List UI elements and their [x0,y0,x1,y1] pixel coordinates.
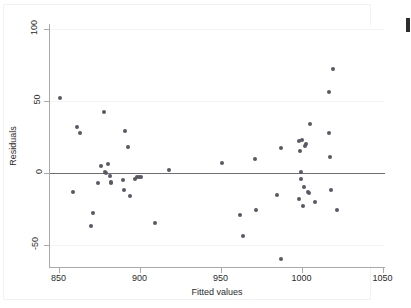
zero-reference-line [50,173,385,174]
gridline-y [50,245,385,246]
scatter-point [99,164,103,168]
y-axis-title: Residuals [9,126,18,166]
scatter-point [238,213,242,217]
scatter-point [313,200,317,204]
scatter-point [71,190,75,194]
y-tick-label: 50 [0,95,42,104]
gridline-y [50,29,385,30]
scatter-point [297,197,301,201]
scatter-point [308,122,312,126]
x-axis-title: Fitted values [49,288,385,297]
edge-artifact-mark [406,18,410,32]
scatter-point [304,142,308,146]
y-tick-label-text: 50 [32,94,41,104]
scatter-point [96,181,100,185]
scatter-point [108,174,112,178]
scatter-point [121,178,125,182]
y-tick-mark [44,245,49,246]
y-tick-label-text: 100 [30,19,39,34]
x-tick-label: 1050 [363,274,403,283]
scatter-point [299,170,303,174]
scatter-point [301,204,305,208]
scatter-plot-figure: 100500-50 85090095010001050 Residuals Fi… [0,0,411,308]
gridline-y [50,101,385,102]
x-axis-line [49,267,385,268]
y-tick-label: -50 [0,239,42,248]
scatter-point [300,138,304,142]
x-tick-label: 850 [39,274,79,283]
plot-area [49,26,385,266]
scatter-point [299,177,303,181]
y-tick-mark [44,29,49,30]
x-tick-label: 900 [120,274,160,283]
y-tick-label-text: 0 [35,168,44,173]
y-axis-line [49,24,50,268]
scatter-point [275,193,279,197]
scatter-point [139,175,143,179]
scatter-point [253,157,257,161]
y-tick-label: 100 [0,23,42,32]
y-tick-mark [44,173,49,174]
y-tick-label-text: -50 [31,236,40,249]
x-tick-label: 950 [201,274,241,283]
x-tick-label: 1000 [282,274,322,283]
scatter-point [167,168,171,172]
y-tick-label: 0 [0,167,42,176]
scatter-point [78,131,82,135]
y-tick-mark [44,101,49,102]
